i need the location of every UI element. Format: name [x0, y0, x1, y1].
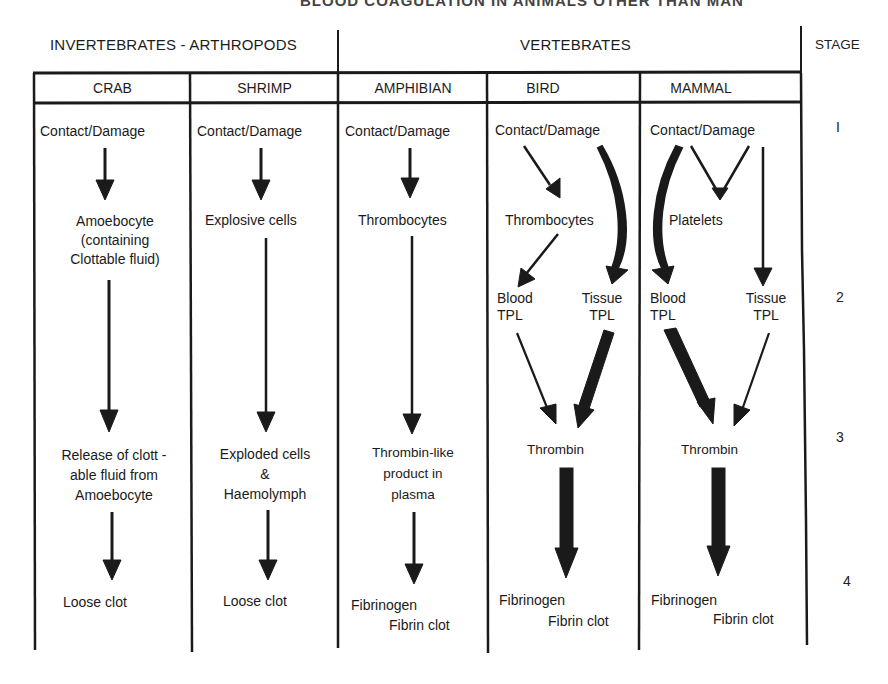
crab-amoebocyte-line1: Amoebocyte	[40, 212, 190, 231]
group-header-stage: STAGE	[815, 37, 860, 52]
group-header-invertebrates: INVERTEBRATES - ARTHROPODS	[50, 36, 297, 53]
bird-thrombin: Thrombin	[527, 440, 584, 460]
amphibian-fibrin-clot: Fibrin clot	[389, 615, 450, 635]
crab-release-clottable-fluid: Release of clott - able fluid from Amoeb…	[38, 445, 190, 505]
column-header-bird: BIRD	[488, 77, 598, 99]
crab-amoebocyte-line3: Clottable fluid)	[40, 250, 190, 269]
amphibian-stage3-line1: Thrombin-like	[339, 442, 487, 463]
shrimp-explosive-cells: Explosive cells	[205, 210, 297, 230]
mammal-blood-tpl: Blood TPL	[650, 290, 686, 324]
mammal-fibrin-clot: Fibrin clot	[713, 609, 774, 629]
bird-fibrinogen: Fibrinogen	[499, 590, 565, 610]
amphibian-thrombocytes: Thrombocytes	[358, 210, 447, 230]
stage-number-1: I	[828, 119, 848, 135]
diagram-lines	[0, 0, 888, 684]
amphibian-stage3-line3: plasma	[339, 484, 487, 505]
shrimp-contact-damage: Contact/Damage	[197, 121, 302, 141]
stage-number-2: 2	[830, 289, 850, 305]
amphibian-stage3-line2: product in	[339, 463, 487, 484]
amphibian-fibrinogen: Fibrinogen	[351, 595, 417, 615]
mammal-thrombin: Thrombin	[681, 440, 738, 460]
mammal-contact-damage: Contact/Damage	[650, 120, 755, 140]
column-header-amphibian: AMPHIBIAN	[339, 77, 487, 99]
bird-thrombocytes: Thrombocytes	[505, 210, 594, 230]
bird-tissue-tpl-line2: TPL	[572, 307, 632, 324]
mammal-tissue-tpl: Tissue TPL	[736, 290, 796, 324]
column-header-mammal: MAMMAL	[641, 77, 761, 99]
crab-stage3-line1: Release of clott -	[38, 445, 190, 465]
column-header-crab: CRAB	[35, 77, 190, 99]
amphibian-contact-damage: Contact/Damage	[345, 121, 450, 141]
shrimp-stage3-line3: Haemolymph	[192, 484, 338, 504]
coagulation-figure: BLOOD COAGULATION IN ANIMALS OTHER THAN …	[0, 0, 888, 684]
shrimp-exploded-cells-haemolymph: Exploded cells & Haemolymph	[192, 444, 338, 504]
mammal-tissue-tpl-line1: Tissue	[736, 290, 796, 307]
crab-stage3-line3: Amoebocyte	[38, 485, 190, 505]
mammal-fibrinogen: Fibrinogen	[651, 590, 717, 610]
bird-blood-tpl-line1: Blood	[497, 290, 533, 307]
crab-contact-damage: Contact/Damage	[40, 121, 145, 141]
mammal-blood-tpl-line2: TPL	[650, 307, 686, 324]
mammal-blood-tpl-line1: Blood	[650, 290, 686, 307]
stage-number-3: 3	[830, 429, 850, 445]
group-header-vertebrates: VERTEBRATES	[520, 36, 631, 53]
column-header-shrimp: SHRIMP	[191, 77, 338, 99]
shrimp-stage3-line1: Exploded cells	[192, 444, 338, 464]
shrimp-stage3-line2: &	[192, 464, 338, 484]
mammal-tissue-tpl-line2: TPL	[736, 307, 796, 324]
bird-contact-damage: Contact/Damage	[495, 120, 600, 140]
stage-number-4: 4	[837, 573, 857, 589]
bird-fibrin-clot: Fibrin clot	[548, 611, 609, 631]
mammal-platelets: Platelets	[669, 210, 723, 230]
crab-stage3-line2: able fluid from	[38, 465, 190, 485]
amphibian-thrombin-like-product: Thrombin-like product in plasma	[339, 442, 487, 505]
bird-blood-tpl-line2: TPL	[497, 307, 533, 324]
bird-tissue-tpl: Tissue TPL	[572, 290, 632, 324]
bird-tissue-tpl-line1: Tissue	[572, 290, 632, 307]
bird-blood-tpl: Blood TPL	[497, 290, 533, 324]
crab-amoebocyte: Amoebocyte (containing Clottable fluid)	[40, 212, 190, 269]
shrimp-loose-clot: Loose clot	[223, 591, 287, 611]
column-border-left	[34, 73, 35, 650]
crab-loose-clot: Loose clot	[63, 592, 127, 612]
crab-amoebocyte-line2: (containing	[40, 231, 190, 250]
